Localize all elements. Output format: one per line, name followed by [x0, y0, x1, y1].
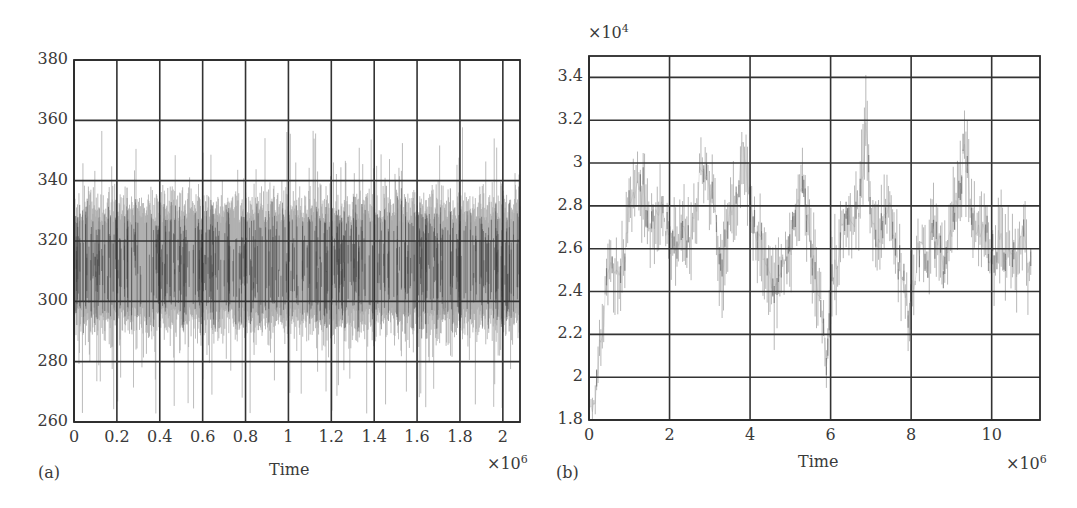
x-tick-label: 10 — [972, 425, 1012, 444]
panel-tag-b: (b) — [556, 463, 579, 482]
x-multiplier-a: ×106 — [487, 453, 528, 473]
y-tick-label: 3.4 — [533, 66, 583, 85]
y-tick-label: 2.2 — [533, 323, 583, 342]
y-tick-label: 320 — [18, 230, 68, 249]
x-multiplier-base-a: ×10 — [487, 454, 521, 473]
y-tick-label: 2 — [533, 366, 583, 385]
x-multiplier-b: ×106 — [1006, 453, 1047, 473]
y-tick-label: 300 — [18, 290, 68, 309]
x-multiplier-exp-a: 6 — [521, 453, 528, 466]
x-tick-label: 8 — [891, 425, 931, 444]
panel-b-axes-box — [589, 56, 1040, 420]
y-tick-label: 3.2 — [533, 109, 583, 128]
panel-a-gridlines — [74, 60, 520, 422]
y-multiplier-b: ×104 — [588, 22, 629, 42]
x-tick-label: 2 — [650, 425, 690, 444]
x-tick-label: 2 — [483, 427, 523, 446]
x-tick-label: 0.6 — [183, 427, 223, 446]
chart-panel-a: 260280300320340360380 00.20.40.60.811.21… — [0, 0, 540, 508]
x-tick-label: 6 — [811, 425, 851, 444]
y-multiplier-exp-b: 4 — [622, 22, 629, 35]
y-tick-label: 360 — [18, 109, 68, 128]
trace-b — [591, 75, 1031, 419]
x-tick-label: 1.2 — [311, 427, 351, 446]
x-axis-label-b: Time — [798, 452, 838, 471]
y-tick-label: 340 — [18, 170, 68, 189]
chart-panel-b: 1.822.22.42.62.833.23.4 0246810 ×104 Tim… — [540, 0, 1077, 508]
x-tick-label: 0.8 — [226, 427, 266, 446]
y-multiplier-base-b: ×10 — [588, 23, 622, 42]
x-tick-label: 0 — [54, 427, 94, 446]
x-tick-label: 0.4 — [140, 427, 180, 446]
x-tick-label: 1.8 — [440, 427, 480, 446]
y-tick-label: 280 — [18, 351, 68, 370]
x-tick-label: 1.4 — [354, 427, 394, 446]
x-axis-label-a: Time — [269, 460, 309, 479]
x-tick-label: 0.2 — [97, 427, 137, 446]
x-tick-label: 1.6 — [397, 427, 437, 446]
panel-b-gridlines — [589, 56, 1040, 420]
trace-a — [74, 127, 520, 413]
x-tick-label: 0 — [569, 425, 609, 444]
x-tick-label: 1 — [268, 427, 308, 446]
panel-tag-a: (a) — [38, 463, 60, 482]
y-tick-label: 2.6 — [533, 238, 583, 257]
x-multiplier-exp-b: 6 — [1040, 453, 1047, 466]
x-multiplier-base-b: ×10 — [1006, 454, 1040, 473]
x-tick-label: 4 — [730, 425, 770, 444]
y-tick-label: 2.4 — [533, 281, 583, 300]
y-tick-label: 380 — [18, 49, 68, 68]
y-tick-label: 3 — [533, 152, 583, 171]
y-tick-label: 2.8 — [533, 195, 583, 214]
